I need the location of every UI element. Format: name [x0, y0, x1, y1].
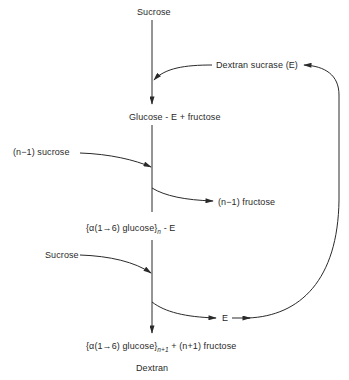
enzyme-release-arrow — [152, 302, 216, 318]
polymer-enzyme-main: {α(1→6) glucose} — [86, 223, 157, 233]
pathway-arrows — [0, 0, 349, 380]
polymer-enzyme-tail: - E — [161, 223, 175, 233]
polymer-enzyme-label: {α(1→6) glucose}n - E — [86, 224, 175, 236]
n-minus-1-sucrose-arrow — [80, 153, 151, 167]
sucrose-input-arrow — [80, 255, 151, 273]
dextran-product-label: {α(1→6) glucose}n+1 + (n+1) fructose — [86, 342, 236, 354]
dextran-subscript: n+1 — [157, 346, 168, 353]
enzyme-label: Dextran sucrase (E) — [216, 61, 298, 70]
n-minus-1-fructose-arrow — [152, 188, 213, 201]
sucrose-mid-label: Sucrose — [45, 251, 79, 260]
dextran-main: {α(1→6) glucose} — [86, 341, 157, 351]
n-minus-1-fructose-label: (n−1) fructose — [218, 198, 275, 207]
enzyme-released-label: E — [222, 314, 228, 323]
dextran-name-label: Dextran — [136, 364, 168, 373]
dextran-tail: + (n+1) fructose — [169, 341, 237, 351]
enzyme-input-arrow — [154, 65, 212, 80]
sucrose-top-label: Sucrose — [137, 8, 171, 17]
n-minus-1-sucrose-label: (n−1) sucrose — [13, 148, 70, 157]
glucose-enzyme-label: Glucose - E + fructose — [129, 113, 221, 122]
recycle-loop-arrow — [248, 65, 339, 318]
